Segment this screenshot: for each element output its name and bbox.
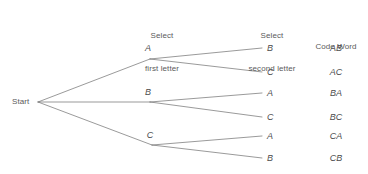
- stage1-node-b: B: [142, 87, 154, 97]
- stage1-node-a: A: [142, 43, 154, 53]
- code-word-ab: AB: [321, 43, 351, 53]
- header-first-letter-line2: first letter: [122, 63, 202, 74]
- stage2-leaf-bc: C: [267, 112, 279, 122]
- root-node-start: Start: [12, 97, 29, 107]
- header-first-letter-line1: Select: [122, 30, 202, 41]
- header-code-word: Code Word: [306, 19, 366, 63]
- stage1-node-c: C: [144, 130, 156, 140]
- code-word-ca: CA: [321, 131, 351, 141]
- stage2-leaf-ba: A: [267, 88, 279, 98]
- header-select-first-letter: Select first letter: [122, 8, 202, 85]
- stage2-leaf-ab: B: [267, 43, 279, 53]
- code-word-bc: BC: [321, 112, 351, 122]
- stage2-leaf-ac: C: [267, 67, 279, 77]
- stage2-leaf-cb: B: [267, 153, 279, 163]
- code-word-ac: AC: [321, 67, 351, 77]
- code-word-cb: CB: [321, 153, 351, 163]
- code-word-ba: BA: [321, 88, 351, 98]
- stage2-leaf-ca: A: [267, 131, 279, 141]
- header-second-letter-line1: Select: [232, 30, 312, 41]
